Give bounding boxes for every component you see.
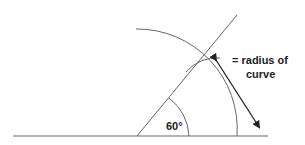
annotation-line2: curve (246, 68, 275, 80)
large-arc (136, 29, 237, 136)
annotation-line1: = radius of (232, 54, 288, 66)
angle-label: 60° (166, 120, 183, 132)
geometry-diagram: 60° = radius of curve (0, 0, 305, 145)
